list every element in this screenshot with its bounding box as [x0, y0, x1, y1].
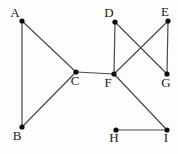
graph-node-label-F: F — [104, 75, 111, 90]
edges-layer — [22, 21, 168, 130]
graph-edge-C-F — [76, 72, 114, 74]
graph-node-E — [165, 18, 170, 23]
graph-diagram: ABCDEFGHI — [0, 0, 178, 154]
graph-edge-F-I — [114, 74, 167, 130]
graph-node-A — [19, 18, 24, 23]
graph-node-label-H: H — [109, 130, 118, 145]
graph-node-label-B: B — [13, 128, 22, 143]
graph-node-D — [112, 19, 117, 24]
graph-node-label-C: C — [71, 73, 80, 88]
graph-edge-A-C — [22, 21, 76, 72]
graph-node-label-E: E — [161, 4, 169, 19]
graph-edge-D-F — [114, 22, 115, 74]
labels-layer: ABCDEFGHI — [10, 4, 170, 145]
graph-node-F — [111, 71, 116, 76]
graph-edge-E-G — [167, 21, 168, 74]
graph-svg: ABCDEFGHI — [0, 0, 178, 154]
graph-node-label-G: G — [161, 75, 170, 90]
graph-node-label-I: I — [164, 130, 168, 145]
nodes-layer — [19, 18, 170, 132]
graph-node-label-D: D — [104, 5, 113, 20]
graph-edge-B-C — [22, 72, 76, 127]
graph-node-label-A: A — [10, 5, 20, 20]
